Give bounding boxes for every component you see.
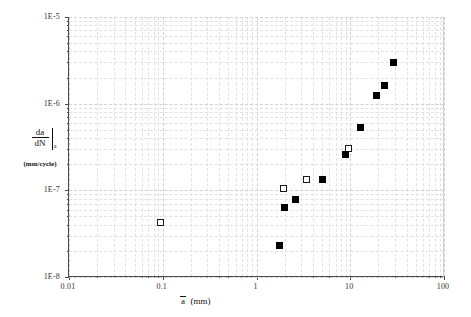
x-gridline [395, 17, 396, 277]
x-gridline [135, 17, 136, 277]
x-gridline [228, 17, 229, 277]
y-gridline [69, 25, 444, 26]
x-gridline [158, 17, 159, 277]
x-axis-tick-label: 0.1 [142, 282, 182, 291]
x-gridline [378, 17, 379, 277]
data-point-filled-square [373, 92, 380, 99]
data-point-open-square [303, 176, 310, 183]
x-gridline [435, 17, 436, 277]
x-gridline [416, 17, 417, 277]
y-gridline [69, 36, 444, 37]
y-axis-tick [67, 43, 69, 44]
data-point-open-square [280, 185, 287, 192]
y-gridline [69, 225, 444, 226]
x-axis-title: a (mm) [180, 296, 211, 306]
y-axis-tick [67, 117, 69, 118]
y-gridline [69, 194, 444, 195]
x-gridline [191, 17, 192, 277]
y-axis-tick [67, 36, 69, 37]
x-gridline [97, 17, 98, 277]
x-gridline [329, 17, 330, 277]
y-axis-denominator: dN [32, 138, 49, 149]
data-point-open-square [157, 219, 164, 226]
y-axis-tick [65, 277, 69, 278]
y-gridline [69, 149, 444, 150]
y-gridline [69, 138, 444, 139]
y-axis-tick-label: 1E-7 [32, 185, 60, 194]
y-gridline [69, 210, 444, 211]
y-gridline [69, 104, 444, 105]
y-axis-tick [67, 62, 69, 63]
data-point-filled-square [381, 82, 388, 89]
y-gridline [69, 236, 444, 237]
x-gridline [257, 17, 258, 277]
x-axis-symbol: a [180, 296, 186, 306]
y-axis-tick [67, 236, 69, 237]
x-axis-tick [444, 276, 445, 280]
data-point-filled-square [357, 124, 364, 131]
x-gridline [142, 17, 143, 277]
x-axis-tick-label: 0.01 [48, 282, 88, 291]
x-gridline [69, 17, 70, 277]
y-axis-tick [65, 190, 69, 191]
x-gridline [285, 17, 286, 277]
data-point-filled-square [390, 59, 397, 66]
data-point-filled-square [276, 242, 283, 249]
x-gridline [148, 17, 149, 277]
y-axis-tick [67, 225, 69, 226]
y-gridline [69, 43, 444, 44]
data-point-filled-square [292, 196, 299, 203]
y-axis-tick [67, 204, 69, 205]
y-axis-tick [67, 194, 69, 195]
data-point-filled-square [319, 176, 326, 183]
x-gridline [247, 17, 248, 277]
x-gridline [242, 17, 243, 277]
y-gridline [69, 62, 444, 63]
y-axis-tick [67, 138, 69, 139]
x-gridline [114, 17, 115, 277]
y-axis-tick [67, 210, 69, 211]
y-axis-tick-label: 1E-5 [32, 12, 60, 21]
x-gridline [219, 17, 220, 277]
x-gridline [429, 17, 430, 277]
x-gridline [423, 17, 424, 277]
figure-container: 1-Open Hole, Test: M4 Alclad 2024-T3 W =… [0, 0, 471, 317]
y-gridline [69, 30, 444, 31]
y-axis-bar-subscript: a [54, 143, 57, 149]
y-axis-tick [65, 17, 69, 18]
y-axis-tick [67, 21, 69, 22]
x-gridline [125, 17, 126, 277]
y-gridline [69, 204, 444, 205]
data-point-filled-square [342, 151, 349, 158]
y-axis-tick [67, 149, 69, 150]
y-axis-tick-label: 1E-8 [32, 272, 60, 281]
x-axis-tick-label: 1 [236, 282, 276, 291]
y-axis-tick [67, 108, 69, 109]
y-gridline [69, 117, 444, 118]
y-gridline [69, 277, 444, 278]
y-axis-tick [67, 25, 69, 26]
y-axis-tick [67, 251, 69, 252]
x-gridline [301, 17, 302, 277]
x-gridline [440, 17, 441, 277]
y-axis-vertical-bar [52, 128, 53, 150]
x-axis-tick-label: 100 [423, 282, 463, 291]
y-axis-tick [67, 30, 69, 31]
y-gridline [69, 51, 444, 52]
y-axis-tick [67, 123, 69, 124]
x-axis-units: (mm) [191, 296, 211, 306]
y-axis-numerator: da [32, 127, 49, 138]
y-axis-tick-label: 1E-6 [32, 99, 60, 108]
x-gridline [207, 17, 208, 277]
y-gridline [69, 130, 444, 131]
x-gridline [341, 17, 342, 277]
y-gridline [69, 21, 444, 22]
x-gridline [313, 17, 314, 277]
x-gridline [236, 17, 237, 277]
x-axis-tick-label: 10 [329, 282, 369, 291]
y-gridline [69, 190, 444, 191]
y-gridline [69, 123, 444, 124]
x-gridline [252, 17, 253, 277]
y-gridline [69, 164, 444, 165]
y-axis-title: da dN a [16, 127, 64, 149]
